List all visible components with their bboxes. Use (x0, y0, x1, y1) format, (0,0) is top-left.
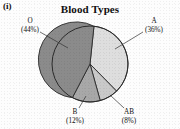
slice-label-ab-name: AB (112, 108, 146, 117)
slice-label-ab: AB (8%) (112, 108, 146, 126)
slice-label-a-percent: (36%) (134, 26, 174, 35)
slice-label-o-percent: (44%) (10, 26, 50, 35)
pie-chart-figure: (i) Blood Types O (44%) A (36%) B (12%) … (0, 0, 180, 129)
slice-label-o-name: O (10, 17, 50, 26)
slice-label-b-name: B (58, 108, 92, 117)
slice-label-b: B (12%) (58, 108, 92, 126)
leader-line-ab (110, 95, 124, 108)
slice-label-b-percent: (12%) (58, 117, 92, 126)
slice-label-ab-percent: (8%) (112, 117, 146, 126)
slice-label-o: O (44%) (10, 17, 50, 35)
slice-label-a-name: A (134, 17, 174, 26)
slice-label-a: A (36%) (134, 17, 174, 35)
